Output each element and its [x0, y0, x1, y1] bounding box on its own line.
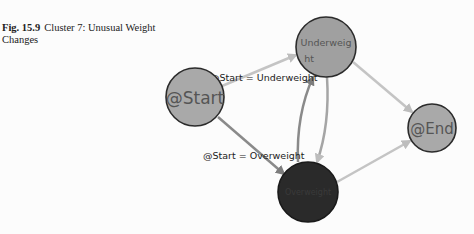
node-start-label: @Start: [166, 88, 225, 108]
edge-underweight-to-overweight: [317, 77, 328, 162]
node-overweight-label: Overweight: [285, 188, 331, 197]
node-underweight[interactable]: Underweig ht: [296, 17, 356, 77]
edge-underweight-to-end: [353, 62, 412, 112]
node-underweight-label-line1: Underweig: [300, 37, 351, 48]
node-underweight-label-line2: ht: [304, 53, 314, 64]
edge-overweight-to-end: [337, 141, 410, 182]
state-diagram: @Start = Underweight @Start = Overweight…: [0, 0, 474, 234]
node-end[interactable]: @End: [408, 104, 456, 152]
edge-label-start-overweight: @Start = Overweight: [203, 150, 305, 161]
node-end-label: @End: [410, 120, 454, 138]
edge-start-to-overweight: [218, 117, 284, 174]
node-start[interactable]: @Start: [166, 68, 225, 126]
node-overweight[interactable]: Overweight: [278, 162, 338, 222]
edge-label-start-underweight: @Start = Underweight: [210, 72, 318, 83]
